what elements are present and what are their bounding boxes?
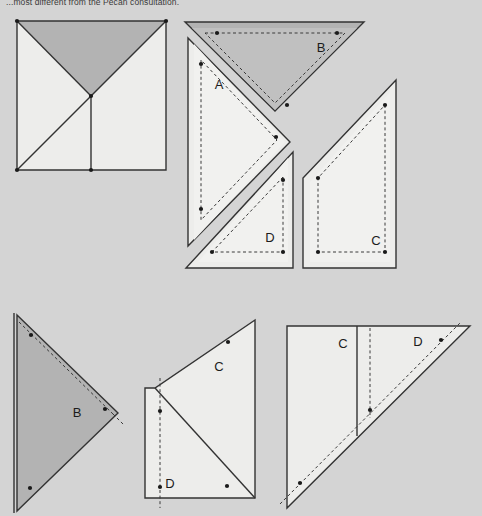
pieces-cd-middle-dot (225, 484, 229, 488)
piece-b-large-dot (103, 407, 107, 411)
piece-c-dot (316, 250, 320, 254)
piece-b-large-dashed-tail (113, 414, 124, 425)
piece-label-b: B (317, 40, 326, 55)
piece-label-c: C (371, 233, 380, 248)
vertex-dot (89, 94, 93, 98)
piece-b-dot (285, 103, 289, 107)
piece-label-c-middle: C (214, 359, 223, 374)
vertex-dot (15, 19, 19, 23)
panel-exploded-pieces: B A D C (185, 22, 396, 268)
panel-pieces-cd-right: C D (280, 323, 470, 508)
piece-label-d: D (265, 230, 274, 245)
piece-label-b-large: B (73, 405, 82, 420)
piece-c-dot (383, 250, 387, 254)
piece-b-dot (335, 31, 339, 35)
vertex-dot (89, 168, 93, 172)
tangram-dissection-diagram: B A D C (0, 0, 482, 516)
pieces-cd-middle-dot (158, 409, 162, 413)
panel-assembled-square (15, 19, 168, 172)
pieces-cd-middle-dot (226, 340, 230, 344)
piece-d-dot (281, 250, 285, 254)
piece-b-large-dot (28, 486, 32, 490)
piece-b-large-outline (17, 315, 118, 511)
piece-a-dot (199, 207, 203, 211)
vertex-dot (164, 19, 168, 23)
piece-a-dot (199, 62, 203, 66)
piece-c-dot (383, 103, 387, 107)
piece-d-dot (281, 178, 285, 182)
pieces-cd-middle-dot (158, 485, 162, 489)
piece-d-dot (210, 250, 214, 254)
piece-label-c-right: C (338, 336, 347, 351)
geometry-figure: ...most different from the Pecan consult… (0, 0, 482, 516)
panel-pieces-cd-middle: C D (145, 320, 255, 508)
piece-b-dot (215, 31, 219, 35)
pieces-cd-right-dot (439, 338, 443, 342)
piece-label-a: A (215, 77, 224, 92)
pieces-cd-right-dot (368, 408, 372, 412)
panel-piece-b-large: B (14, 313, 124, 513)
pieces-cd-right-outline (287, 326, 470, 508)
piece-b-large-dot (29, 333, 33, 337)
piece-a-dot (274, 135, 278, 139)
pieces-cd-right-dot (298, 481, 302, 485)
vertex-dot (15, 168, 19, 172)
pieces-cd-middle-outline (145, 320, 255, 498)
piece-c-dot (316, 176, 320, 180)
piece-label-d-middle: D (165, 476, 174, 491)
piece-label-d-right: D (413, 334, 422, 349)
